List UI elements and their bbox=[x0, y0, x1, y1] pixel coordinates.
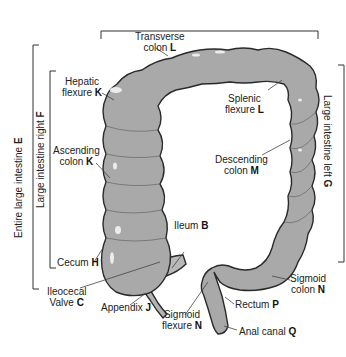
bracket-transverse bbox=[101, 31, 318, 39]
bracket-right bbox=[50, 71, 56, 268]
label-transverse-colon: Transverse colon L bbox=[135, 31, 185, 53]
label-large-intestine-left: Large intestine left G bbox=[322, 95, 333, 187]
label-ileum: Ileum B bbox=[174, 220, 208, 231]
colon-outline bbox=[102, 48, 320, 334]
colon-body bbox=[102, 48, 320, 334]
label-ascending-colon: Ascending colon K bbox=[53, 145, 100, 167]
label-large-intestine-right: Large intestine right F bbox=[35, 111, 46, 208]
label-sigmoid-colon: Sigmoid colon N bbox=[290, 273, 326, 295]
label-cecum: Cecum H bbox=[57, 257, 99, 268]
label-hepatic-flexure: Hepatic flexure K bbox=[62, 76, 102, 98]
label-rectum: Rectum P bbox=[235, 299, 279, 310]
label-descending-colon: Descending colon M bbox=[215, 154, 268, 176]
bracket-left bbox=[338, 65, 344, 262]
label-splenic-flexure: Splenic flexure L bbox=[225, 93, 264, 115]
label-sigmoid-flexure: Sigmoid flexure N bbox=[162, 309, 202, 331]
label-ileocecal-valve: Ileocecal Valve C bbox=[47, 286, 86, 308]
label-anal-canal: Anal canal Q bbox=[239, 326, 296, 337]
label-entire-large-intestine: Entire large intestine E bbox=[13, 137, 24, 238]
label-appendix: Appendix J bbox=[101, 302, 151, 313]
